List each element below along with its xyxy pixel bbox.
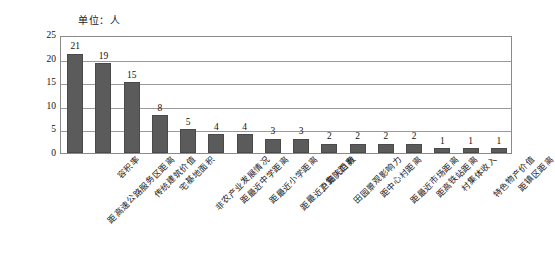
bar bbox=[237, 134, 253, 153]
unit-caption: 单位：人 bbox=[78, 12, 120, 27]
bar-value-label: 2 bbox=[384, 132, 389, 142]
bar-value-label: 19 bbox=[99, 52, 109, 62]
bar-value-label: 5 bbox=[186, 118, 191, 128]
plot-area: 2119158544332222111 bbox=[60, 36, 512, 154]
bar-slot: 21 bbox=[61, 37, 89, 153]
y-axis-tick-15: 15 bbox=[47, 78, 57, 88]
bar-slot: 4 bbox=[202, 37, 230, 153]
bar-slot: 2 bbox=[372, 37, 400, 153]
bar-slot: 5 bbox=[174, 37, 202, 153]
bar-value-label: 1 bbox=[497, 137, 502, 147]
bar-value-label: 3 bbox=[299, 127, 304, 137]
bar bbox=[491, 148, 507, 153]
bar-value-label: 15 bbox=[127, 71, 137, 81]
bar bbox=[152, 115, 168, 153]
bar-slot: 8 bbox=[146, 37, 174, 153]
bar bbox=[265, 139, 281, 153]
bar bbox=[378, 144, 394, 153]
bar-value-label: 21 bbox=[70, 42, 80, 52]
y-axis-tick-0: 0 bbox=[51, 149, 56, 159]
bar bbox=[95, 63, 111, 153]
bar-value-label: 1 bbox=[468, 137, 473, 147]
bar-slot: 4 bbox=[231, 37, 259, 153]
y-axis: 0510152025 bbox=[26, 36, 56, 154]
bar bbox=[208, 134, 224, 153]
bar-value-label: 2 bbox=[355, 132, 360, 142]
bar-slot: 1 bbox=[485, 37, 513, 153]
bar-slot: 2 bbox=[315, 37, 343, 153]
bar-value-label: 1 bbox=[440, 137, 445, 147]
bar-slot: 2 bbox=[400, 37, 428, 153]
bar-value-label: 4 bbox=[214, 123, 219, 133]
bar-value-label: 3 bbox=[271, 127, 276, 137]
bar-slot: 1 bbox=[457, 37, 485, 153]
bar-value-label: 4 bbox=[242, 123, 247, 133]
bar bbox=[67, 54, 83, 153]
y-axis-tick-20: 20 bbox=[47, 55, 57, 65]
bar bbox=[434, 148, 450, 153]
bar bbox=[350, 144, 366, 153]
bar bbox=[406, 144, 422, 153]
x-axis-label: 户籍人口数 bbox=[319, 155, 357, 193]
bar bbox=[293, 139, 309, 153]
bar-series: 2119158544332222111 bbox=[61, 37, 511, 153]
bar-slot: 1 bbox=[428, 37, 456, 153]
bar-value-label: 2 bbox=[412, 132, 417, 142]
y-axis-tick-5: 5 bbox=[51, 126, 56, 136]
bar-slot: 3 bbox=[287, 37, 315, 153]
bar-value-label: 8 bbox=[158, 104, 163, 114]
bar bbox=[463, 148, 479, 153]
bar-slot: 19 bbox=[89, 37, 117, 153]
bar-slot: 15 bbox=[118, 37, 146, 153]
y-axis-tick-10: 10 bbox=[47, 102, 57, 112]
bar-slot: 3 bbox=[259, 37, 287, 153]
x-axis-label: 容积率 bbox=[116, 155, 141, 180]
y-axis-tick-25: 25 bbox=[47, 31, 57, 41]
bar bbox=[321, 144, 337, 153]
bar bbox=[124, 82, 140, 153]
bar-slot: 2 bbox=[344, 37, 372, 153]
bar-value-label: 2 bbox=[327, 132, 332, 142]
x-axis-labels: 距高速公路服务区距离容积率传统建筑价值宅基地面积非农产业发展情况距最近中学距离距… bbox=[60, 155, 512, 255]
bar bbox=[180, 129, 196, 153]
